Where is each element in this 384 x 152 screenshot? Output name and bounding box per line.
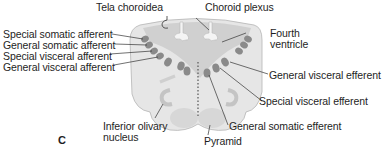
- label-general-visceral-efferent: General visceral efferent: [269, 69, 381, 81]
- label-pyramid: Pyramid: [204, 135, 242, 147]
- label-special-visceral-efferent: Special visceral efferent: [259, 95, 368, 107]
- label-general-visceral-afferent: General visceral afferent: [3, 61, 115, 73]
- panel-label: C: [58, 134, 66, 146]
- label-general-somatic-efferent: General somatic efferent: [229, 120, 341, 132]
- label-choroid-plexus: Choroid plexus: [205, 1, 274, 13]
- pyramid-right: [198, 108, 226, 128]
- pyramid-left: [170, 108, 198, 128]
- label-tela-choroidea: Tela choroidea: [96, 1, 163, 13]
- label-inferior-olivary-line2: nucleus: [103, 131, 139, 143]
- label-fourth-ventricle-line2: ventricle: [270, 38, 308, 50]
